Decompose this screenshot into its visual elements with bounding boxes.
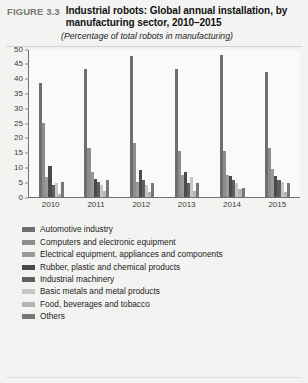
y-axis-tick-label: 0 (19, 194, 23, 202)
legend-item: Basic metals and metal products (22, 286, 308, 298)
legend-swatch (22, 252, 35, 257)
x-axis-tick-label: 2012 (119, 200, 164, 209)
y-axis-tick (25, 182, 28, 183)
y-axis-tick-label: 20 (14, 134, 23, 142)
figure-number: FIGURE 3.3 (7, 5, 60, 17)
figure-title: Industrial robots: Global annual install… (66, 5, 300, 28)
figure-page: FIGURE 3.3 Industrial robots: Global ann… (0, 0, 308, 383)
legend-swatch (22, 277, 35, 282)
figure-header: FIGURE 3.3 Industrial robots: Global ann… (0, 0, 308, 28)
bar-group (165, 50, 210, 197)
legend-swatch (22, 265, 35, 270)
legend-item: Rubber, plastic and chemical products (22, 261, 308, 273)
bar (287, 183, 290, 196)
x-axis-labels: 201020112012201320142015 (28, 200, 300, 209)
y-axis-tick (25, 153, 28, 154)
bar (106, 180, 109, 196)
y-axis-tick-label: 5 (19, 179, 23, 187)
legend-label: Rubber, plastic and chemical products (40, 263, 180, 272)
y-axis-tick-label: 15 (14, 149, 23, 157)
legend-label: Automotive industry (40, 225, 113, 234)
legend-item: Electrical equipment, appliances and com… (22, 248, 308, 260)
legend-item: Automotive industry (22, 224, 308, 236)
legend-swatch (22, 240, 35, 245)
bar-group (119, 50, 164, 197)
x-axis-tick-label: 2015 (255, 200, 300, 209)
bar-group (210, 50, 255, 197)
chart-container: 05101520253035404550 2010201120122013201… (4, 50, 302, 218)
bar-groups (29, 50, 300, 197)
bar-group (255, 50, 300, 197)
legend-label: Industrial machinery (40, 275, 114, 284)
y-axis-tick (25, 123, 28, 124)
y-axis-tick (25, 168, 28, 169)
x-axis-tick-label: 2010 (28, 200, 73, 209)
legend-swatch (22, 314, 35, 319)
legend-label: Computers and electronic equipment (40, 238, 176, 247)
y-axis-tick-label: 35 (14, 90, 23, 98)
x-axis-tick-label: 2011 (73, 200, 118, 209)
bar (61, 182, 64, 197)
legend-swatch (22, 289, 35, 294)
y-axis-tick-label: 50 (14, 46, 23, 54)
chart-legend: Automotive industryComputers and electro… (22, 224, 308, 323)
legend-item: Computers and electronic equipment (22, 236, 308, 248)
legend-swatch (22, 227, 35, 232)
y-axis-tick (25, 64, 28, 65)
legend-item: Food, beverages and tobacco (22, 298, 308, 310)
footer-divider (6, 377, 302, 378)
legend-label: Basic metals and metal products (40, 287, 160, 296)
bar-group (29, 50, 74, 197)
y-axis-tick-label: 40 (14, 75, 23, 83)
x-axis-tick-label: 2013 (164, 200, 209, 209)
bar (242, 188, 245, 197)
legend-label: Food, beverages and tobacco (40, 300, 150, 309)
y-axis-tick (25, 94, 28, 95)
bar (196, 183, 199, 196)
legend-item: Industrial machinery (22, 273, 308, 285)
y-axis-tick-label: 45 (14, 60, 23, 68)
y-axis-tick (25, 49, 28, 50)
legend-swatch (22, 302, 35, 307)
bar-group (74, 50, 119, 197)
legend-item: Others (22, 310, 308, 322)
y-axis-tick-label: 10 (14, 164, 23, 172)
bar (151, 183, 154, 196)
header-divider (6, 46, 302, 47)
plot-area (28, 50, 300, 198)
figure-subtitle: (Percentage of total robots in manufactu… (61, 31, 300, 41)
y-axis-tick-label: 30 (14, 105, 23, 113)
x-axis-tick-label: 2014 (209, 200, 254, 209)
y-axis-tick (25, 79, 28, 80)
legend-label: Others (40, 312, 65, 321)
y-axis-tick-label: 25 (14, 120, 23, 128)
y-axis-tick (25, 138, 28, 139)
y-axis-tick (25, 108, 28, 109)
y-axis-tick (25, 197, 28, 198)
y-axis-labels: 05101520253035404550 (4, 50, 25, 198)
legend-label: Electrical equipment, appliances and com… (40, 250, 223, 259)
